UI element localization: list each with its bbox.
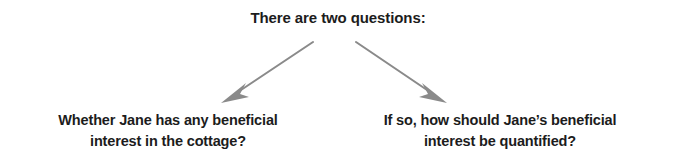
question-right-line-1: If so, how should Jane’s beneficial bbox=[360, 110, 640, 131]
question-left: Whether Jane has any beneficial interest… bbox=[26, 110, 310, 152]
question-left-line-1: Whether Jane has any beneficial bbox=[26, 110, 310, 131]
diagram-title: There are two questions: bbox=[0, 8, 676, 28]
question-left-line-2: interest in the cottage? bbox=[26, 131, 310, 152]
arrow-left-shaft bbox=[238, 42, 313, 92]
diagram-canvas: There are two questions: Whether Jane ha… bbox=[0, 0, 676, 166]
question-right-line-2: interest be quantified? bbox=[360, 131, 640, 152]
arrow-left-head bbox=[221, 83, 249, 103]
arrow-right-head bbox=[419, 83, 447, 103]
question-right: If so, how should Jane’s beneficial inte… bbox=[360, 110, 640, 152]
arrow-to-question-left bbox=[221, 42, 313, 103]
arrow-to-question-right bbox=[356, 42, 447, 103]
arrow-right-shaft bbox=[356, 42, 430, 92]
